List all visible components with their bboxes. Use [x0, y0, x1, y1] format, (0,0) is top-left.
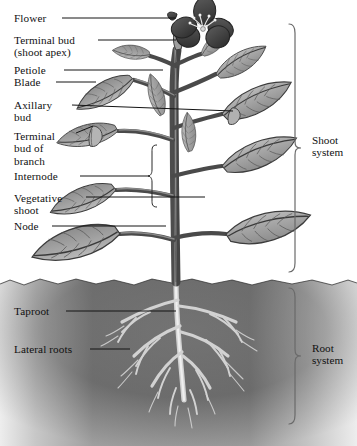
brace-shoot-system	[289, 24, 301, 272]
label-vegetative-shoot: Vegetative shoot	[14, 192, 62, 217]
label-node: Node	[14, 220, 39, 232]
system-label-shoot-system: Shoot system	[312, 134, 343, 159]
label-internode: Internode	[14, 170, 58, 182]
label-flower: Flower	[14, 12, 46, 24]
label-blade: Blade	[14, 76, 41, 88]
label-axillary-bud: Axillary bud	[14, 99, 52, 124]
label-terminal-bud-branch: Terminal bud of branch	[14, 130, 55, 167]
label-terminal-bud: Terminal bud (shoot apex)	[14, 34, 75, 59]
label-petiole: Petiole	[14, 64, 46, 76]
main-stem	[174, 50, 177, 282]
plant-anatomy-figure: FlowerTerminal bud (shoot apex)PetioleBl…	[0, 0, 357, 446]
label-lateral-roots: Lateral roots	[14, 343, 72, 355]
plant-illustration	[0, 0, 357, 446]
label-taproot: Taproot	[14, 305, 49, 317]
system-label-root-system: Root system	[312, 342, 343, 367]
